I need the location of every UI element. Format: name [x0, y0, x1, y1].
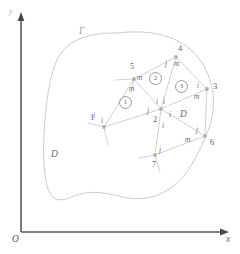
local-node-label-m: m: [137, 74, 142, 82]
node-label-7: 7: [152, 160, 156, 169]
domain-label-inner: D: [180, 110, 187, 120]
node-tick-marks: [88, 79, 160, 172]
node-label-4: 4: [178, 44, 182, 53]
node-dot-2: [159, 107, 163, 111]
element-label-2: 2: [149, 72, 162, 85]
tick-node-1-down: [104, 127, 108, 145]
element-label-1: 1: [119, 96, 132, 109]
local-node-label-i: i: [156, 98, 158, 106]
local-node-label-i: i: [162, 122, 164, 130]
local-node-label-j: j: [147, 107, 149, 115]
tick-node-5-left: [115, 79, 134, 80]
node-dot-3: [205, 87, 209, 91]
local-node-label-i: i: [93, 112, 95, 120]
mesh-figure: [0, 0, 240, 254]
local-node-label-i: i: [169, 111, 171, 119]
tick-node-7-left: [139, 155, 155, 158]
local-node-label-i: i: [101, 117, 103, 125]
edge-3-6: [205, 89, 207, 136]
domain-boundary-curve: [44, 32, 214, 200]
node-dot-7: [153, 153, 157, 157]
node-dot-1: [102, 125, 106, 129]
local-node-label-m: m: [129, 85, 134, 93]
local-node-label-m: m: [185, 136, 190, 144]
local-node-label-j: j: [196, 126, 198, 134]
axis-group: [18, 12, 229, 235]
boundary-gamma-label: Γ: [79, 27, 84, 37]
mesh-nodes: [102, 55, 209, 157]
node-dot-6: [203, 134, 207, 138]
node-label-2: 2: [153, 115, 157, 124]
node-dot-5: [132, 77, 136, 81]
node-label-3: 3: [213, 82, 217, 91]
x-axis-label: x: [226, 235, 230, 245]
y-axis-label: y: [9, 8, 13, 16]
local-node-label-m: m: [174, 60, 179, 68]
y-axis-arrowhead: [18, 12, 25, 21]
origin-label: O: [12, 235, 19, 245]
local-node-label-j: j: [159, 146, 161, 154]
node-label-6: 6: [210, 138, 214, 147]
element-label-3: 3: [175, 80, 188, 93]
local-node-label-j: j: [165, 60, 167, 68]
edge-7-6: [155, 136, 205, 155]
node-label-5: 5: [130, 62, 134, 71]
local-node-label-m: m: [194, 93, 199, 101]
domain-label-outer: D: [51, 150, 58, 160]
local-node-label-i: i: [163, 98, 165, 106]
local-node-label-i: i: [197, 82, 199, 90]
